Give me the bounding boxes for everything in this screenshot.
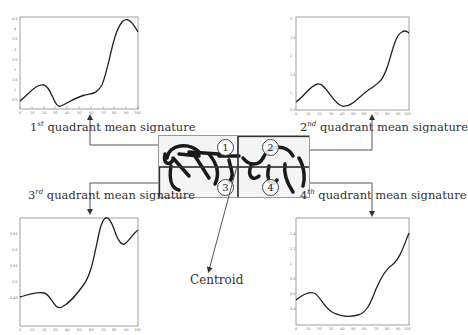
q3-signature-chart: 0.650.60.550.50.45 010203040506070809010… bbox=[0, 215, 145, 333]
svg-text:10: 10 bbox=[306, 327, 310, 331]
svg-text:0.4: 0.4 bbox=[290, 307, 296, 311]
svg-text:40: 40 bbox=[340, 327, 344, 331]
svg-text:0.45: 0.45 bbox=[10, 296, 18, 300]
svg-text:1: 1 bbox=[290, 262, 292, 266]
svg-text:60: 60 bbox=[362, 327, 366, 331]
q4-signature-chart: 1.41.210.80.60.4 0102030405060708090100 bbox=[290, 215, 450, 333]
svg-text:60: 60 bbox=[89, 328, 93, 332]
svg-text:0: 0 bbox=[295, 327, 297, 331]
svg-text:70: 70 bbox=[374, 327, 378, 331]
caption-q4: 4th quadrant mean signature bbox=[300, 188, 467, 202]
svg-text:20: 20 bbox=[42, 328, 46, 332]
svg-text:100: 100 bbox=[134, 328, 141, 332]
svg-text:0.55: 0.55 bbox=[10, 264, 18, 268]
svg-text:90: 90 bbox=[124, 328, 128, 332]
svg-text:70: 70 bbox=[101, 328, 105, 332]
plot-q4: 1.41.210.80.60.4 0102030405060708090100 bbox=[290, 215, 450, 333]
svg-text:50: 50 bbox=[77, 328, 81, 332]
svg-text:0.5: 0.5 bbox=[12, 280, 18, 284]
centroid-label: Centroid bbox=[190, 273, 243, 287]
svg-text:0: 0 bbox=[19, 328, 21, 332]
svg-text:40: 40 bbox=[65, 328, 69, 332]
caption-q3: 3rd quadrant mean signature bbox=[28, 188, 195, 202]
svg-text:1.4: 1.4 bbox=[290, 232, 296, 236]
svg-text:0.8: 0.8 bbox=[290, 277, 296, 281]
svg-text:30: 30 bbox=[53, 328, 57, 332]
plot-q3: 0.650.60.550.50.45 010203040506070809010… bbox=[0, 215, 145, 333]
svg-text:80: 80 bbox=[112, 328, 116, 332]
svg-text:100: 100 bbox=[404, 327, 411, 331]
svg-text:0.6: 0.6 bbox=[290, 292, 296, 296]
svg-text:10: 10 bbox=[30, 328, 34, 332]
svg-text:0.6: 0.6 bbox=[12, 248, 18, 252]
svg-text:80: 80 bbox=[385, 327, 389, 331]
svg-text:20: 20 bbox=[317, 327, 321, 331]
svg-text:50: 50 bbox=[351, 327, 355, 331]
svg-text:0.65: 0.65 bbox=[10, 232, 18, 236]
svg-text:30: 30 bbox=[329, 327, 333, 331]
svg-text:1.2: 1.2 bbox=[290, 247, 296, 251]
svg-text:90: 90 bbox=[396, 327, 400, 331]
